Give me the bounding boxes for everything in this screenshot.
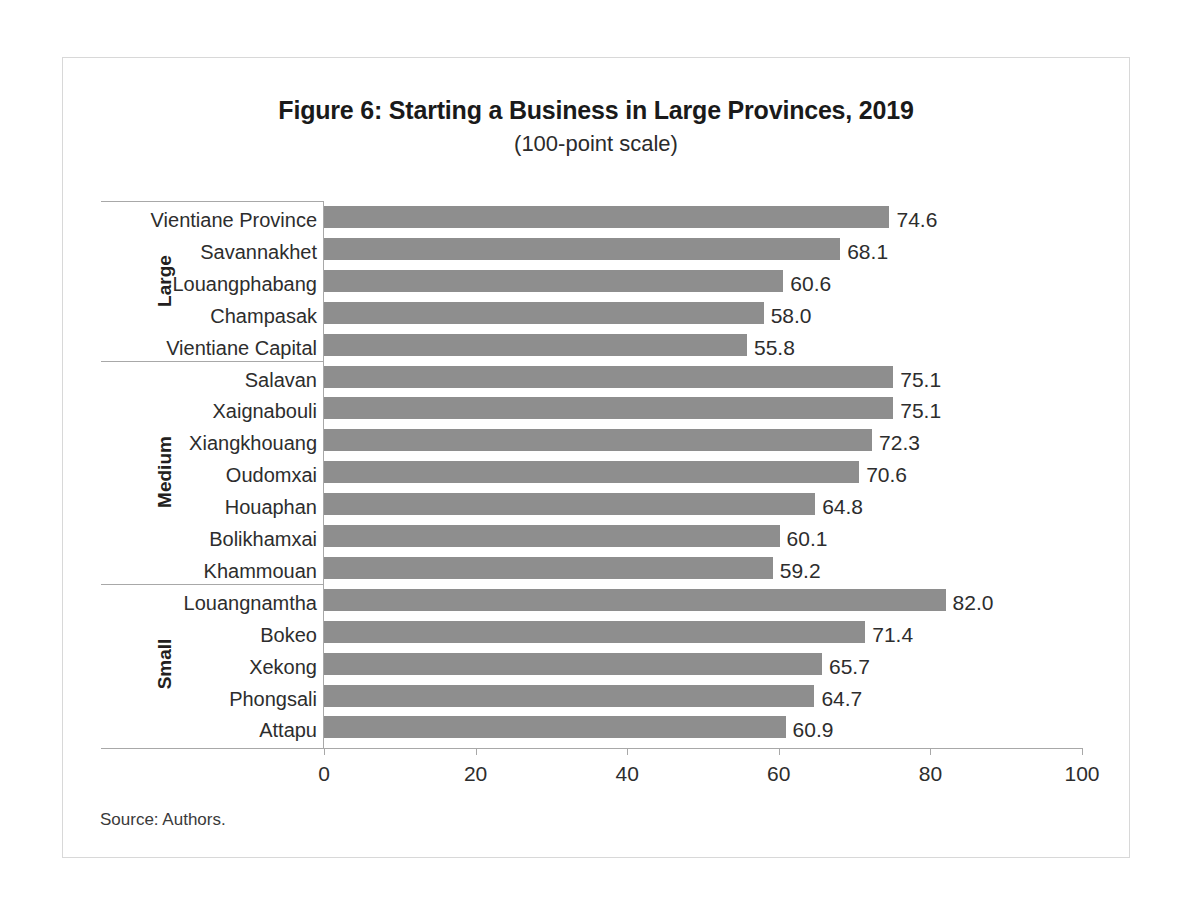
bar-value-label: 68.1 (847, 241, 888, 262)
x-axis-tick (930, 748, 931, 755)
chart-subtitle: (100-point scale) (63, 131, 1129, 156)
x-axis-tick (324, 748, 325, 755)
bar-value-label: 58.0 (771, 305, 812, 326)
bar-value-label: 64.8 (822, 496, 863, 517)
bar (324, 302, 764, 324)
category-label: Louangnamtha (119, 593, 317, 613)
category-label: Savannakhet (119, 242, 317, 262)
bar-value-label: 59.2 (780, 560, 821, 581)
x-axis-tick-label: 20 (464, 762, 487, 786)
group-label-medium: Medium (154, 412, 176, 532)
bar-value-label: 65.7 (829, 656, 870, 677)
bar-value-label: 60.1 (787, 528, 828, 549)
group-separator (101, 361, 324, 362)
bar-value-label: 71.4 (872, 624, 913, 645)
category-label: Attapu (119, 720, 317, 740)
category-label: Bokeo (119, 625, 317, 645)
bar-value-label: 74.6 (896, 209, 937, 230)
x-axis-tick-label: 60 (767, 762, 790, 786)
group-separator (101, 201, 324, 202)
x-axis-tick (779, 748, 780, 755)
bar-value-label: 60.9 (793, 719, 834, 740)
bar (324, 685, 814, 707)
page-title: Figure 6: Starting a Business in Large P… (63, 96, 1129, 125)
category-label: Oudomxai (119, 465, 317, 485)
bar-value-label: 60.6 (790, 273, 831, 294)
x-axis-line (101, 748, 1083, 749)
category-label: Vientiane Province (119, 210, 317, 230)
x-axis-tick-label: 100 (1064, 762, 1099, 786)
category-label: Phongsali (119, 689, 317, 709)
x-axis-tick (476, 748, 477, 755)
bar (324, 270, 783, 292)
bar (324, 429, 872, 451)
group-separator (101, 584, 324, 585)
category-label: Xaignabouli (119, 401, 317, 421)
x-axis-tick (1082, 748, 1083, 755)
bar (324, 557, 773, 579)
x-axis-tick-label: 40 (616, 762, 639, 786)
category-label: Louangphabang (119, 274, 317, 294)
bar (324, 206, 889, 228)
bar-value-label: 72.3 (879, 432, 920, 453)
bar (324, 621, 865, 643)
bar-value-label: 70.6 (866, 464, 907, 485)
bar-value-label: 82.0 (953, 592, 994, 613)
x-axis-tick (627, 748, 628, 755)
bar (324, 493, 815, 515)
category-label: Bolikhamxai (119, 529, 317, 549)
category-label: Vientiane Capital (119, 338, 317, 358)
bar (324, 366, 893, 388)
chart-plot-area: 74.6Vientiane Province68.1Savannakhet60.… (101, 201, 1119, 749)
bar (324, 334, 747, 356)
bar (324, 238, 840, 260)
title-block: Figure 6: Starting a Business in Large P… (63, 96, 1129, 156)
source-note: Source: Authors. (100, 810, 226, 830)
bar (324, 653, 822, 675)
bar-value-label: 64.7 (821, 688, 862, 709)
bar (324, 397, 893, 419)
category-label: Houaphan (119, 497, 317, 517)
x-axis-tick-label: 0 (318, 762, 330, 786)
bar-value-label: 75.1 (900, 369, 941, 390)
group-label-small: Small (154, 604, 176, 724)
bar (324, 716, 786, 738)
bar (324, 461, 859, 483)
bar (324, 589, 946, 611)
bar-value-label: 55.8 (754, 337, 795, 358)
category-label: Champasak (119, 306, 317, 326)
bar (324, 525, 780, 547)
category-label: Xiangkhouang (119, 433, 317, 453)
figure-frame: Figure 6: Starting a Business in Large P… (62, 57, 1130, 858)
bar-value-label: 75.1 (900, 400, 941, 421)
category-label: Salavan (119, 370, 317, 390)
category-label: Khammouan (119, 561, 317, 581)
category-label: Xekong (119, 657, 317, 677)
x-axis-tick-label: 80 (919, 762, 942, 786)
group-label-large: Large (154, 221, 176, 341)
